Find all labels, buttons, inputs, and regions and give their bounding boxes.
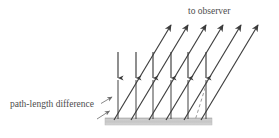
reflected-ray	[184, 25, 241, 120]
reflected-ray	[201, 25, 258, 120]
reflected-ray	[131, 25, 188, 120]
to-observer-label: to observer	[188, 6, 231, 16]
diagram-canvas: to observer path-length difference	[0, 0, 279, 138]
incident-ray-tail-group	[118, 80, 206, 119]
path-length-difference-label: path-length difference	[10, 99, 94, 109]
incident-ray-group	[118, 52, 206, 78]
reflected-ray	[149, 25, 206, 120]
reflecting-surface	[105, 118, 212, 125]
path-difference-pointer-arrow	[101, 97, 112, 104]
reflected-ray	[114, 25, 171, 120]
reflected-ray	[166, 25, 223, 120]
path-difference-pointer-group	[97, 97, 112, 119]
surface-slab	[105, 118, 212, 125]
physics-diagram-figure: to observer path-length difference	[0, 0, 279, 138]
